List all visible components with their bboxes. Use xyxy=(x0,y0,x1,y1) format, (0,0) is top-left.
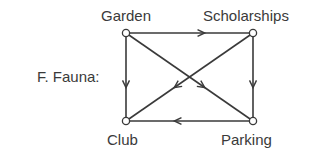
directed-graph xyxy=(0,0,310,162)
node-garden xyxy=(122,29,129,36)
node-parking xyxy=(249,117,256,124)
node-scholarships xyxy=(249,29,256,36)
node-club xyxy=(122,117,129,124)
